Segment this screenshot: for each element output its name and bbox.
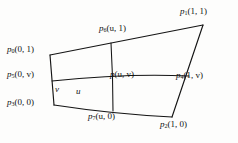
label-edge-top-mid: p6(u, 1)	[99, 24, 126, 33]
label-args: (1, v)	[184, 70, 204, 80]
label-args: (0, 0)	[15, 97, 35, 107]
label-args: (0, v)	[15, 69, 35, 79]
label-args: (u, 0)	[96, 111, 116, 121]
label-args: (1, 0)	[168, 119, 188, 129]
label-edge-left-mid: p5(0, v)	[7, 70, 34, 79]
patch-edge-left	[50, 55, 54, 105]
label-edge-right-mid: p4(1, v)	[176, 71, 203, 80]
label-corner-bottom-right: p2(1, 0)	[160, 120, 187, 129]
label-args: (1, 1)	[188, 6, 208, 16]
label-edge-bottom-mid: p7(u, 0)	[88, 112, 115, 121]
label-interior-point: p(u, v)	[110, 70, 134, 79]
patch-edge-top	[50, 25, 203, 55]
label-param-u: u	[76, 86, 81, 96]
surface-patch-figure: p0(0, 1) p5(0, v) p3(0, 0) p6(u, 1) p1(1…	[0, 0, 238, 143]
label-corner-bottom-left: p3(0, 0)	[7, 98, 34, 107]
label-args: (u, v)	[115, 69, 135, 79]
label-param-v: v	[55, 84, 59, 94]
label-corner-top-right: p1(1, 1)	[180, 7, 207, 16]
label-args: (u, 1)	[107, 23, 127, 33]
label-corner-top-left: p0(0, 1)	[7, 45, 34, 54]
label-args: (0, 1)	[15, 44, 35, 54]
